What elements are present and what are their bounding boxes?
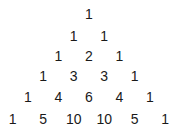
triangle-number: 4 (116, 90, 124, 104)
triangle-number: 10 (96, 112, 112, 126)
triangle-number: 5 (131, 112, 139, 126)
triangle-number: 3 (100, 69, 108, 83)
triangle-number: 3 (70, 69, 78, 83)
triangle-number: 10 (66, 112, 82, 126)
triangle-number: 1 (131, 69, 139, 83)
triangle-number: 5 (39, 112, 47, 126)
pascals-triangle: 11112113311464115101051 (0, 0, 178, 131)
triangle-number: 1 (9, 112, 17, 126)
triangle-number: 1 (146, 90, 154, 104)
triangle-number: 1 (24, 90, 32, 104)
triangle-number: 1 (161, 112, 169, 126)
triangle-number: 1 (116, 49, 124, 63)
triangle-number: 1 (85, 7, 93, 21)
triangle-number: 6 (85, 90, 93, 104)
triangle-number: 1 (55, 49, 63, 63)
triangle-number: 2 (85, 49, 93, 63)
triangle-number: 1 (70, 29, 78, 43)
triangle-number: 1 (39, 69, 47, 83)
triangle-number: 1 (100, 29, 108, 43)
triangle-number: 4 (55, 90, 63, 104)
